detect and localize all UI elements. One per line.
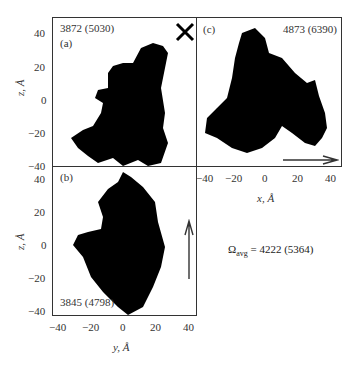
- xtick-b-40: 40: [183, 322, 194, 333]
- ytick-a-20: 20: [34, 62, 45, 73]
- xlabel-c: x, Å: [257, 192, 274, 204]
- value-a: 3872 (5030): [60, 23, 114, 34]
- xtick-b-0: 0: [120, 322, 126, 333]
- xtick-c-neg20: −20: [225, 173, 242, 184]
- ytick-b-20: 20: [34, 207, 45, 218]
- panel-c: (c) 4873 (6390): [196, 17, 342, 167]
- ylabel-b: z, Å: [14, 234, 26, 251]
- molecule-projection-b: [53, 167, 198, 317]
- panel-label-c: (c): [203, 24, 215, 35]
- ytick-a-neg40: −40: [28, 161, 45, 172]
- xtick-b-neg20: −20: [82, 322, 99, 333]
- omega-symbol: Ω: [228, 243, 236, 255]
- omega-value: = 4222 (5364): [248, 243, 314, 255]
- xlabel-b: y, Å: [113, 341, 130, 353]
- xtick-b-neg40: −40: [49, 322, 66, 333]
- panel-label-a: (a): [60, 38, 72, 49]
- xtick-c-neg40: −40: [196, 173, 213, 184]
- panel-b: (b) 3845 (4798): [52, 166, 197, 316]
- ytick-b-neg40: −40: [28, 306, 45, 317]
- ytick-b-40: 40: [34, 174, 45, 185]
- molecule-projection-c: [197, 18, 343, 168]
- ytick-b-neg20: −20: [28, 273, 45, 284]
- ytick-a-0: 0: [41, 95, 47, 106]
- xtick-c-20: 20: [292, 173, 303, 184]
- omega-average: Ωavg = 4222 (5364): [228, 243, 314, 258]
- ytick-a-neg20: −20: [28, 128, 45, 139]
- omega-subscript: avg: [236, 249, 248, 258]
- cross-icon: [175, 22, 195, 42]
- value-c: 4873 (6390): [283, 24, 337, 35]
- xtick-b-20: 20: [150, 322, 161, 333]
- ytick-b-0: 0: [41, 240, 47, 251]
- arrow-up-icon: [184, 219, 194, 279]
- xtick-c-40: 40: [325, 173, 336, 184]
- panel-a: 3872 (5030) (a): [52, 17, 197, 167]
- ylabel-a: z, Å: [14, 80, 26, 97]
- arrow-right-icon: [283, 155, 339, 165]
- xtick-c-0: 0: [262, 173, 268, 184]
- value-b: 3845 (4798): [60, 297, 114, 308]
- panel-label-b: (b): [60, 172, 73, 183]
- ytick-a-40: 40: [34, 28, 45, 39]
